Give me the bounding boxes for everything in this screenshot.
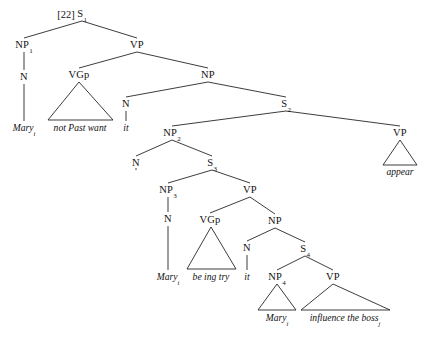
syntax-tree-figure: [22] S1NP1VPNVGpNPNS2NP2VPNS3NP3VPNVGpNP… xyxy=(0,0,425,337)
node-label: N xyxy=(164,213,172,224)
tree-node-s3: S3 xyxy=(207,158,217,169)
leaf-subscript: i xyxy=(286,320,288,327)
node-label: VP xyxy=(326,271,340,282)
branch-vp3-to-np4a xyxy=(250,197,275,214)
example-number: [22] xyxy=(57,9,75,20)
branch-vp1-to-vgp1 xyxy=(79,52,137,68)
node-label: VGp xyxy=(68,69,89,80)
tree-node-np4a: NP xyxy=(268,216,282,227)
node-subscript: 2 xyxy=(177,135,181,143)
node-label: N xyxy=(132,157,140,168)
leaf-text: it xyxy=(244,271,249,282)
node-label: NP xyxy=(268,215,282,226)
tree-node-np3: NP3 xyxy=(159,185,177,196)
node-subscript: 4 xyxy=(282,279,286,287)
tree-node-np1: NP1 xyxy=(15,40,33,51)
vgp2-triangle xyxy=(187,227,236,269)
tree-node-n4: N xyxy=(164,214,172,225)
branch-np2-to-n3 xyxy=(136,140,172,156)
tree-leaf-it-2: it xyxy=(244,272,249,282)
node-label: VGp xyxy=(199,214,220,225)
node-label: NP xyxy=(163,127,177,138)
tree-node-n1: N xyxy=(20,72,28,83)
tree-node-n5: N xyxy=(243,243,251,254)
tree-leaf-mary-2: Maryi xyxy=(157,272,180,282)
tree-node-vgp2: VGp xyxy=(199,215,220,226)
branch-np2a-to-s2 xyxy=(208,82,286,97)
branch-s2-to-np2 xyxy=(172,111,286,126)
tree-leaf-appear: appear xyxy=(386,167,413,177)
node-label: NP xyxy=(201,69,215,80)
leaf-text: Mary xyxy=(157,271,178,282)
tree-node-vgp1: VGp xyxy=(68,70,89,81)
branch-np4a-to-n5 xyxy=(247,228,275,241)
branch-np2a-to-n2 xyxy=(126,82,208,97)
tree-node-s4: S4 xyxy=(300,244,310,255)
node-label: NP xyxy=(268,271,282,282)
branch-s1-to-vp1 xyxy=(82,21,137,38)
node-label: N xyxy=(122,98,130,109)
vp2-triangle xyxy=(383,140,417,165)
tree-node-vp2: VP xyxy=(393,128,407,139)
tree-node-s1: S1 xyxy=(77,9,87,20)
leaf-subscript: i xyxy=(33,130,35,137)
branch-s3-to-vp3 xyxy=(212,170,250,183)
node-label: NP xyxy=(159,184,173,195)
tree-node-s2: S2 xyxy=(281,99,291,110)
leaf-text: be ing try xyxy=(193,271,230,282)
branch-vp3-to-vgp2 xyxy=(210,197,250,213)
node-subscript: 3 xyxy=(213,165,217,173)
tree-leaf-vgp2-text: be ing try xyxy=(193,272,230,282)
leaf-text: not Past want xyxy=(54,122,107,133)
tree-leaf-mary-1: Maryi xyxy=(13,123,36,133)
tree-leaf-vp4-text: influence the bossj xyxy=(310,313,381,323)
branch-s4-to-np4 xyxy=(277,256,305,270)
node-label: VP xyxy=(393,127,407,138)
node-subscript: 1 xyxy=(29,47,33,55)
branch-s3-to-np3 xyxy=(168,170,212,183)
leaf-text: Mary xyxy=(13,122,34,133)
tree-node-np2: NP2 xyxy=(163,128,181,139)
tree-node-n3: N xyxy=(132,158,140,169)
leaf-text: Mary xyxy=(266,312,287,323)
node-label: VP xyxy=(243,184,257,195)
branch-s2-to-vp2 xyxy=(286,111,400,126)
tree-node-n2: N xyxy=(122,99,130,110)
node-subscript: 1 xyxy=(83,16,87,24)
node-label: VP xyxy=(130,39,144,50)
node-subscript: 2 xyxy=(287,106,291,114)
tree-node-np2a: NP xyxy=(201,70,215,81)
tree-node-vp1: VP xyxy=(130,40,144,51)
leaf-text: it xyxy=(123,122,128,133)
node-label: NP xyxy=(15,39,29,50)
node-subscript: 4 xyxy=(306,251,310,259)
np4-triangle xyxy=(258,284,296,310)
tree-leaf-it-1: it xyxy=(123,123,128,133)
tree-node-vp3: VP xyxy=(243,185,257,196)
branch-np4a-to-s4 xyxy=(275,228,305,242)
leaf-text: appear xyxy=(386,166,413,177)
vgp1-triangle xyxy=(48,82,113,120)
node-subscript: 3 xyxy=(173,192,177,200)
branch-s1-to-np1 xyxy=(24,21,82,38)
tree-leaf-vgp1-text: not Past want xyxy=(54,123,107,133)
tree-leaf-mary-3: Maryi xyxy=(266,313,289,323)
leaf-text: influence the boss xyxy=(310,312,379,323)
node-label: N xyxy=(243,242,251,253)
branch-vp1-to-np2a xyxy=(137,52,208,68)
leaf-subscript: i xyxy=(177,279,179,286)
node-label: N xyxy=(20,71,28,82)
vp4-triangle xyxy=(301,284,390,310)
tree-node-vp4: VP xyxy=(326,272,340,283)
tree-node-np4: NP4 xyxy=(268,272,286,283)
leaf-subscript: j xyxy=(378,320,380,327)
